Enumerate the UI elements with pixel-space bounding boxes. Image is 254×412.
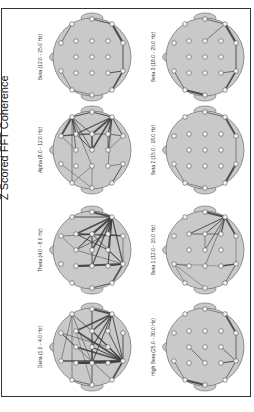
electrode-F8 <box>70 88 75 93</box>
band-label-delta: Delta (1.0 - 4.0 Hz) <box>37 326 43 369</box>
electrode-T6 <box>110 181 115 186</box>
electrode-O1 <box>234 134 239 139</box>
electrode-Fp1 <box>172 234 177 239</box>
electrode-C4 <box>90 164 95 169</box>
electrode-C4 <box>203 71 208 76</box>
electrode-Cz <box>90 148 95 153</box>
electrode-T4 <box>90 93 95 98</box>
electrode-O2 <box>234 262 239 267</box>
coherence-head-maps: Beta (12.0 - 25.0 Hz)Beta 3 (18.0 - 25.0… <box>0 0 254 412</box>
electrode-P4 <box>106 361 111 366</box>
electrode-C4 <box>90 264 95 269</box>
electrode-P3 <box>106 132 111 137</box>
electrode-F4 <box>187 264 192 269</box>
electrode-F3 <box>187 329 192 334</box>
electrode-F8 <box>70 281 75 286</box>
electrode-O1 <box>234 331 239 336</box>
electrode-F8 <box>183 378 188 383</box>
electrode-Cz <box>203 148 208 153</box>
electrode-F3 <box>187 232 192 237</box>
electrode-T6 <box>223 281 228 286</box>
electrode-F3 <box>74 39 79 44</box>
electrode-F7 <box>183 215 188 220</box>
electrode-F4 <box>74 71 79 76</box>
electrode-C3 <box>203 329 208 334</box>
electrode-Fz <box>187 248 192 253</box>
electrode-C3 <box>203 39 208 44</box>
electrode-P4 <box>219 164 224 169</box>
electrode-F7 <box>183 115 188 120</box>
electrode-F7 <box>183 22 188 27</box>
head-map-delta: Delta (1.0 - 4.0 Hz) <box>37 303 131 391</box>
electrode-O2 <box>121 359 126 364</box>
electrode-T4 <box>90 186 95 191</box>
electrode-Fp1 <box>172 331 177 336</box>
electrode-Fp2 <box>59 162 64 167</box>
electrode-P4 <box>106 164 111 169</box>
head-map-highbeta: High Beta (25.0 - 30.0 Hz) <box>150 303 244 391</box>
electrode-Pz <box>219 345 224 350</box>
electrode-T6 <box>110 378 115 383</box>
electrode-O2 <box>234 162 239 167</box>
electrode-F4 <box>74 164 79 169</box>
electrode-Fp1 <box>59 41 64 46</box>
electrode-Fp2 <box>172 162 177 167</box>
electrode-F7 <box>183 312 188 317</box>
electrode-O1 <box>121 134 126 139</box>
electrode-F7 <box>70 215 75 220</box>
electrode-F8 <box>70 378 75 383</box>
electrode-F7 <box>70 312 75 317</box>
band-label-beta3: Beta 3 (18.0 - 25.0 Hz) <box>150 31 156 82</box>
electrode-F3 <box>187 132 192 137</box>
electrode-P3 <box>106 329 111 334</box>
electrode-C3 <box>90 39 95 44</box>
band-label-alpha: Alpha (8.0 - 12.0 Hz) <box>37 127 43 173</box>
electrode-C4 <box>90 71 95 76</box>
band-label-beta1: Beta 1 (12.0 - 15.0 Hz) <box>150 224 156 275</box>
electrode-P4 <box>106 71 111 76</box>
electrode-O2 <box>121 262 126 267</box>
electrode-Fz <box>74 148 79 153</box>
electrode-O1 <box>121 41 126 46</box>
electrode-T4 <box>203 186 208 191</box>
electrode-T5 <box>223 312 228 317</box>
electrode-T4 <box>90 383 95 388</box>
electrode-T5 <box>223 215 228 220</box>
head-map-alpha: Alpha (8.0 - 12.0 Hz) <box>37 106 131 194</box>
electrode-T3 <box>90 110 95 115</box>
electrode-Fz <box>74 345 79 350</box>
electrode-Fp2 <box>59 262 64 267</box>
electrode-T4 <box>203 383 208 388</box>
electrode-Fp2 <box>59 69 64 74</box>
electrode-O2 <box>234 359 239 364</box>
electrode-F4 <box>74 264 79 269</box>
electrode-F4 <box>74 361 79 366</box>
electrode-Fz <box>74 248 79 253</box>
electrode-T3 <box>90 17 95 22</box>
electrode-O2 <box>234 69 239 74</box>
electrode-T6 <box>110 88 115 93</box>
electrode-F4 <box>187 71 192 76</box>
head-map-beta3: Beta 3 (18.0 - 25.0 Hz) <box>150 13 244 101</box>
electrode-Fz <box>74 55 79 60</box>
electrode-P3 <box>219 232 224 237</box>
electrode-Fz <box>187 345 192 350</box>
electrode-Cz <box>90 55 95 60</box>
electrode-P3 <box>219 39 224 44</box>
head-map-beta1: Beta 1 (12.0 - 15.0 Hz) <box>150 206 244 294</box>
band-label-highbeta: High Beta (25.0 - 30.0 Hz) <box>150 318 156 376</box>
electrode-P3 <box>219 329 224 334</box>
electrode-Cz <box>90 345 95 350</box>
electrode-C4 <box>203 361 208 366</box>
electrode-F7 <box>70 115 75 120</box>
electrode-T6 <box>110 281 115 286</box>
electrode-C3 <box>90 329 95 334</box>
electrode-F7 <box>70 22 75 27</box>
electrode-P3 <box>219 132 224 137</box>
electrode-Cz <box>203 345 208 350</box>
electrode-O1 <box>121 331 126 336</box>
head-map-theta: Theta (4.0 - 8.0 Hz) <box>37 206 131 294</box>
electrode-Fp1 <box>172 41 177 46</box>
electrode-T6 <box>223 88 228 93</box>
electrode-F8 <box>183 181 188 186</box>
